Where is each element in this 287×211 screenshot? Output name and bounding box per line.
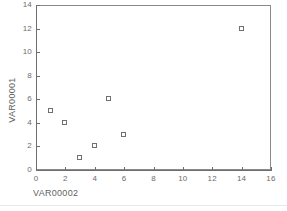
scatter-plot-screenshot: 0246810121416 02468101214 VAR00002 VAR00… [0,0,287,211]
data-point-marker [106,96,111,101]
x-tick-label: 0 [28,174,44,184]
data-point-marker [48,108,53,113]
x-tick-label: 6 [116,174,132,184]
y-tick-label: 10 [12,47,32,56]
x-tick-label: 4 [87,174,103,184]
y-tick [37,170,40,171]
data-point-marker [239,26,244,31]
y-tick-label: 12 [12,24,32,33]
y-tick-label: 2 [12,141,32,150]
data-point-marker [62,120,67,125]
x-axis-line [36,170,272,171]
x-tick [65,167,66,170]
y-tick-label: 0 [12,165,32,174]
y-tick [37,99,40,100]
data-point-marker [77,155,82,160]
x-tick-label: 10 [175,174,191,184]
x-tick-label: 8 [146,174,162,184]
y-axis-title: VAR00001 [7,66,17,134]
plot-area-frame [36,5,271,170]
x-tick [242,167,243,170]
x-tick-label: 2 [57,174,73,184]
x-tick [271,167,272,170]
x-tick [154,167,155,170]
x-tick [95,167,96,170]
y-tick-label: 14 [12,0,32,9]
y-tick [37,5,40,6]
x-axis-title: VAR00002 [33,188,78,198]
y-tick [37,123,40,124]
x-tick [183,167,184,170]
data-point-marker [92,143,97,148]
x-tick [212,167,213,170]
scan-artifact-line [0,205,287,206]
x-tick-label: 14 [234,174,250,184]
y-tick [37,146,40,147]
y-tick [37,52,40,53]
y-tick [37,76,40,77]
x-tick [124,167,125,170]
y-tick [37,29,40,30]
data-point-marker [121,132,126,137]
x-tick-label: 16 [263,174,279,184]
x-tick-label: 12 [204,174,220,184]
